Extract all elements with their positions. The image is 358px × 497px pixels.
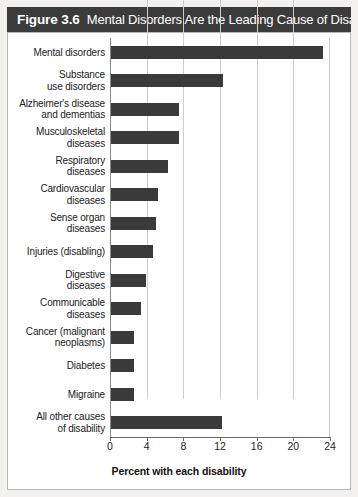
category-label-line: Migraine <box>0 389 105 401</box>
category-label: Migraine <box>0 389 105 401</box>
category-label: Alzheimer's diseaseand dementias <box>0 98 105 121</box>
bar <box>111 131 179 144</box>
category-label-line: and dementias <box>0 109 105 121</box>
category-label: Mental disorders <box>0 47 105 59</box>
category-label-line: All other causes <box>0 411 105 423</box>
category-label-line: Alzheimer's disease <box>0 98 105 110</box>
category-label-line: Musculoskeletal <box>0 126 105 138</box>
category-label-line: Mental disorders <box>0 47 105 59</box>
category-label-line: diseases <box>0 223 105 235</box>
category-label-line: Injuries (disabling) <box>0 246 105 258</box>
x-tick-label: 8 <box>168 440 198 452</box>
bar <box>111 103 179 116</box>
category-label-line: Communicable <box>0 297 105 309</box>
category-label: Digestivediseases <box>0 269 105 292</box>
category-label-line: diseases <box>0 138 105 150</box>
gridline-20 <box>293 0 294 399</box>
bar <box>111 302 141 315</box>
category-label: Injuries (disabling) <box>0 246 105 258</box>
bar <box>111 388 134 401</box>
gridline-16 <box>257 0 258 399</box>
gridline-8 <box>183 0 184 399</box>
x-axis-title: Percent with each disability <box>0 465 358 477</box>
x-tick-label: 4 <box>132 440 162 452</box>
category-label-line: Cardiovascular <box>0 183 105 195</box>
category-label-line: diseases <box>0 280 105 292</box>
category-label-line: Cancer (malignant <box>0 326 105 338</box>
x-tick-label: 20 <box>278 440 308 452</box>
bar <box>111 274 146 287</box>
category-label-line: of disability <box>0 423 105 435</box>
category-label-line: use disorders <box>0 81 105 93</box>
bar <box>111 331 134 344</box>
category-label-line: Digestive <box>0 269 105 281</box>
category-label-line: Respiratory <box>0 155 105 167</box>
gridline-12 <box>220 0 221 399</box>
x-tick-label: 0 <box>95 440 125 452</box>
category-label: Musculoskeletaldiseases <box>0 126 105 149</box>
category-label-line: neoplasms) <box>0 337 105 349</box>
x-tick-label: 12 <box>205 440 235 452</box>
bar <box>111 188 158 201</box>
category-label-line: Substance <box>0 69 105 81</box>
category-label: Diabetes <box>0 360 105 372</box>
x-tick-label: 24 <box>315 440 345 452</box>
category-label-line: diseases <box>0 195 105 207</box>
bar <box>111 359 134 372</box>
category-label-line: Sense organ <box>0 212 105 224</box>
bar <box>111 245 153 258</box>
bar <box>111 74 223 87</box>
bar <box>111 46 323 59</box>
x-tick-label: 16 <box>242 440 272 452</box>
category-label-line: diseases <box>0 166 105 178</box>
category-label-line: diseases <box>0 309 105 321</box>
category-label: Cardiovasculardiseases <box>0 183 105 206</box>
category-label: Sense organdiseases <box>0 212 105 235</box>
category-label: All other causesof disability <box>0 411 105 434</box>
category-label: Communicablediseases <box>0 297 105 320</box>
category-label: Substanceuse disorders <box>0 69 105 92</box>
bar <box>111 416 222 429</box>
bar <box>111 217 156 230</box>
category-label-line: Diabetes <box>0 360 105 372</box>
category-label: Respiratorydiseases <box>0 155 105 178</box>
bar <box>111 160 168 173</box>
bar-chart: Mental disordersSubstanceuse disordersAl… <box>0 0 358 497</box>
figure-card: Figure 3.6 Mental Disorders Are the Lead… <box>0 0 358 497</box>
category-label: Cancer (malignantneoplasms) <box>0 326 105 349</box>
